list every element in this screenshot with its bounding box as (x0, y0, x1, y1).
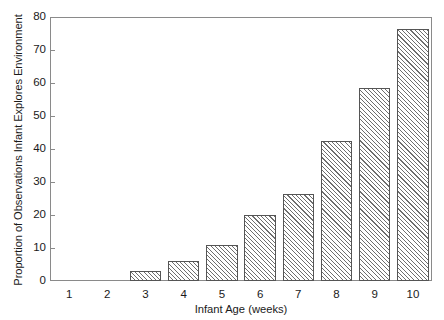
bar (168, 261, 199, 281)
bar (359, 88, 390, 281)
y-axis-tick-label: 30 (12, 176, 46, 188)
x-axis-tick-label: 5 (202, 288, 242, 300)
x-axis-tick-label: 9 (355, 288, 395, 300)
y-axis-tick-mark (51, 248, 55, 249)
bar (321, 141, 352, 281)
x-axis-tick-label: 1 (49, 288, 89, 300)
y-axis-tick-label: 40 (12, 143, 46, 155)
y-axis-tick-mark (51, 149, 55, 150)
y-axis-tick-mark (51, 83, 55, 84)
x-axis-tick-label: 2 (87, 288, 127, 300)
x-axis-tick-label: 7 (278, 288, 318, 300)
x-axis-tick-label: 10 (393, 288, 433, 300)
bar (206, 245, 237, 281)
y-axis-tick-mark (51, 116, 55, 117)
y-axis-tick-mark (51, 215, 55, 216)
bar-chart-figure: Proportion of Observations Infant Explor… (0, 0, 444, 320)
y-axis-tick-mark (51, 182, 55, 183)
y-axis-tick-label: 50 (12, 110, 46, 122)
bar (244, 215, 275, 281)
x-axis-tick-label: 4 (164, 288, 204, 300)
bar (130, 271, 161, 281)
y-axis-tick-label: 80 (12, 11, 46, 23)
x-axis-tick-label: 3 (126, 288, 166, 300)
bar (397, 29, 428, 281)
y-axis-tick-label: 70 (12, 44, 46, 56)
y-axis-tick-label: 10 (12, 242, 46, 254)
x-axis-tick-label: 8 (317, 288, 357, 300)
bar (283, 194, 314, 281)
x-axis-tick-label: 6 (240, 288, 280, 300)
y-axis-tick-mark (51, 50, 55, 51)
y-axis-tick-label: 20 (12, 209, 46, 221)
y-axis-tick-label: 60 (12, 77, 46, 89)
y-axis-tick-label: 0 (12, 275, 46, 287)
x-axis-title: Infant Age (weeks) (50, 303, 432, 316)
